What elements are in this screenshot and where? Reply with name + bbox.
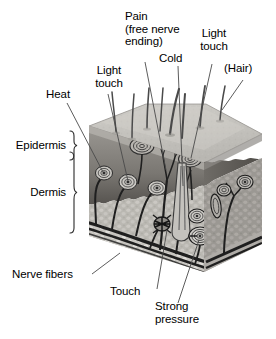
label-nerve-fibers: Nerve fibers xyxy=(12,268,100,281)
skin-receptors-figure: Heat Light touch Pain (free nerve ending… xyxy=(0,0,276,339)
label-hair: (Hair) xyxy=(224,62,272,75)
receptor-side-upper xyxy=(237,175,253,189)
label-cold: Cold xyxy=(159,52,199,65)
label-light-touch-right: Light touch xyxy=(186,27,242,52)
label-strong-pressure: Strong pressure xyxy=(155,300,233,325)
label-touch: Touch xyxy=(110,285,158,298)
receptor-side-mid xyxy=(217,184,231,196)
layer-brackets xyxy=(70,131,77,233)
bracket-dermis xyxy=(70,152,77,233)
label-dermis: Dermis xyxy=(0,186,66,199)
leader-hair xyxy=(222,80,243,110)
label-heat: Heat xyxy=(22,88,70,101)
label-epidermis: Epidermis xyxy=(0,139,66,152)
label-light-touch-left: Light touch xyxy=(81,64,137,89)
